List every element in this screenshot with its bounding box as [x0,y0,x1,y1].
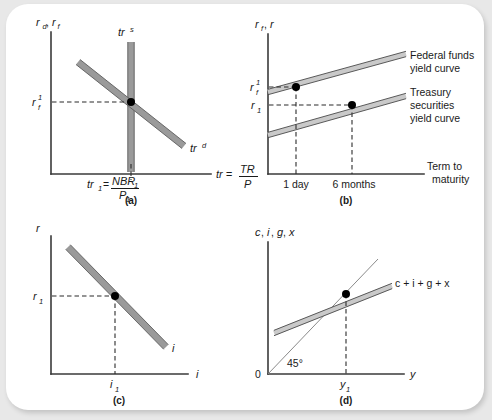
panel-d-curve-label: c + i + g + x [395,277,450,289]
panel-b-ytick-upper-base: r [250,81,255,93]
panel-d-x-tick-label: y 1 [339,378,350,394]
panel-c-x-axis-label: i [196,368,199,380]
figure-card: r d , r f r f 1 tr s tr d tr 1 = NBR 1 [6,4,484,410]
panel-a-equilibrium-point [127,98,135,106]
panel-b-ytick-lower-base: r [251,99,256,111]
panel-b-tsy-label-line1: Treasury [410,86,452,98]
panel-b-x-tick-right: 6 months [332,178,375,190]
panel-b-tsy-label-line2: securities [410,99,454,111]
panel-b-ytick-lower-sub: 1 [257,106,261,115]
panel-b-ylabel-r1: r [255,18,260,30]
panel-a-supply-label-sup: s [130,25,134,34]
panel-b-tsy-fill [268,96,406,135]
panel-c-xtick-base: i [110,378,113,390]
panel-b-x-tick-left: 1 day [283,178,309,190]
panel-a-xpoint-sub: 1 [98,184,102,193]
panel-b-ff-fill [268,54,406,92]
panel-c-xtick-sub: 1 [115,385,119,394]
figure-svg: r d , r f r f 1 tr s tr d tr 1 = NBR 1 [6,4,484,410]
panel-d-origin-label: 0 [255,368,261,380]
panel-a-ylabel-r1: r [36,16,41,28]
panel-a-xlabel-den: P [244,178,252,190]
panel-a-xpoint-eq: = [103,178,109,190]
panel-b-ylabel-r2: r [270,18,275,30]
panel-a-xlabel-num: TR [240,163,255,175]
panel-a-ytick-sub: f [38,103,41,112]
panel-b-treasury-curve [268,93,406,137]
panel-b-x-axis-label-line1: Term to [427,160,462,172]
panel-d-exp-fill [274,286,392,333]
panel-c-ytick-base: r [33,290,38,302]
panel-a-y-axis-label: r d , r f [36,16,61,31]
panel-d-ylabel-i: i [267,226,270,238]
panel-a-xlabel-text: tr = [216,168,233,180]
panel-c-point [111,292,119,300]
panel-b-point-6months [348,101,356,109]
panel-c-curve-edge-top [70,245,168,345]
panel-a-demand-label-sup: d [202,141,207,150]
panel-a-xpoint-base: tr [87,178,95,190]
panel-b-point-1day [292,83,300,91]
panel-b-y-tick-upper: r f 1 [250,78,260,97]
panel-d-xtick-sub: 1 [346,385,350,394]
panel-d-exp-edge-top [274,283,392,330]
panel-d-x-axis-label: y [409,368,417,380]
panel-d-ylabel-comma2: , [271,226,274,238]
panel-a-demand-curve-label: tr d [190,141,207,155]
panel-b: r f , r r f 1 r 1 1 day 6 months Federal… [250,18,474,206]
panel-b-ytick-upper-sup: 1 [256,78,260,87]
panel-b-ff-label-line2: yield curve [410,62,460,74]
panel-a-ylabel-comma: , [46,16,49,28]
panel-d-ylabel-x: x [288,226,295,238]
panel-a: r d , r f r f 1 tr s tr d tr 1 = NBR 1 [32,16,258,206]
panel-c-y-axis-label: r [36,222,41,234]
panel-d-y-axis-label: c , i , g , x [255,226,295,238]
panel-a-letter: (a) [125,195,137,206]
panel-b-ff-label-line1: Federal funds [410,49,474,61]
panel-d-angle-label: 45° [287,357,303,369]
panel-c-ytick-sub: 1 [39,297,43,306]
panel-d-equilibrium-point [342,290,350,298]
panel-a-supply-curve-label: tr s [118,25,134,39]
panel-b-y-axis-label: r f , r [255,18,275,33]
panel-a-y-tick-label: r f 1 [32,93,42,112]
panel-d-letter: (d) [340,395,353,406]
panel-c-letter: (c) [113,395,125,406]
panel-b-ytick-upper-sub: f [256,88,259,97]
panel-b-ylabel-comma: , [264,18,267,30]
panel-a-demand-label-base: tr [190,142,198,154]
panel-b-federal-funds-curve [268,51,406,94]
panel-a-ylabel-sub-f: f [58,22,61,31]
panel-a-ytick-sup: 1 [38,93,42,102]
panel-a-xpoint-num: NBR [112,175,135,187]
panel-d-ylabel-comma1: , [261,226,264,238]
panel-b-tsy-edge-top [268,93,406,132]
panel-a-x-axis-label: tr = TR P [216,163,258,190]
panel-b-y-tick-lower: r 1 [251,99,261,115]
panel-a-ytick-base: r [32,96,37,108]
panel-c-x-tick-label: i 1 [110,378,119,394]
panel-b-ff-edge-top [268,51,406,89]
panel-a-supply-label-base: tr [118,26,126,38]
panel-c-curve-label: i [172,342,175,354]
panel-b-ff-edge-bottom [268,57,406,95]
panel-d: c , i , g , x 0 45° c + i + g + x y y 1 … [255,226,450,406]
panel-c: r r 1 i 1 i i (c) [33,222,199,406]
panel-d-exp-edge-bottom [274,289,392,336]
panel-c-y-tick-label: r 1 [33,290,43,306]
panel-d-expenditure-curve [274,283,392,335]
panel-d-ylabel-comma3: , [283,226,286,238]
panel-b-tsy-label-line3: yield curve [410,112,460,124]
panel-a-ylabel-r2: r [52,16,57,28]
panel-b-letter: (b) [340,195,353,206]
panel-b-x-axis-label-line2: maturity [432,173,470,185]
